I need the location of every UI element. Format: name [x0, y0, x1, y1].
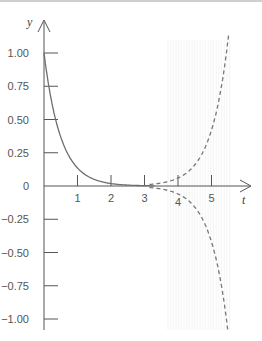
solid-curve — [44, 53, 155, 186]
y-tick-label: 0.50 — [8, 114, 29, 126]
x-tick-label: 5 — [208, 192, 214, 204]
y-tick-label: 1.00 — [8, 47, 29, 59]
y-tick-label: 0.75 — [8, 80, 29, 92]
series — [44, 35, 229, 331]
y-tick-label: 0.25 — [8, 147, 29, 159]
chart: y t 1.000.750.500.250−0.25−0.50−0.75−1.0… — [0, 0, 262, 341]
y-tick-label: −0.25 — [1, 213, 29, 225]
y-tick-label: −1.00 — [1, 313, 29, 325]
y-tick-label: 0 — [23, 180, 29, 192]
x-tick-label: 4 — [175, 196, 181, 208]
y-axis-label: y — [26, 15, 33, 29]
x-tick-label: 1 — [74, 192, 80, 204]
x-tick-label: 2 — [108, 192, 114, 204]
upper-dashed-curve — [150, 35, 229, 185]
y-tick-label: −0.50 — [1, 247, 29, 259]
axes: y t — [26, 15, 251, 330]
x-tick-label: 3 — [141, 192, 147, 204]
x-axis-label: t — [242, 193, 246, 207]
hatch-shading — [168, 40, 230, 330]
y-tick-label: −0.75 — [1, 280, 29, 292]
